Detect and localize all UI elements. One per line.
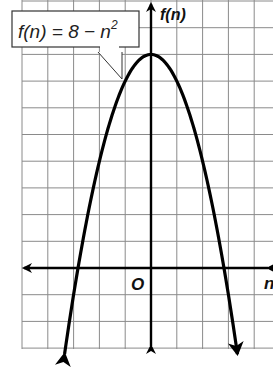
equation-callout: f(n) = 8 − n2 <box>12 11 139 79</box>
equation-label: f(n) = 8 − n2 <box>18 18 118 42</box>
parabola-graph: f(n) = 8 − n2 f(n) n O <box>0 0 273 369</box>
y-axis-label: f(n) <box>160 6 186 23</box>
grid-lines <box>22 0 273 349</box>
x-axis-label: n <box>264 274 273 293</box>
origin-label: O <box>131 275 144 294</box>
